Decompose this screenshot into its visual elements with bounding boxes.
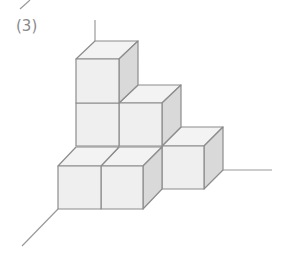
axis-top-left-tick bbox=[20, 0, 30, 9]
cube-stack-diagram bbox=[0, 0, 287, 254]
cube-top bbox=[76, 41, 138, 103]
cube-middle-left bbox=[76, 103, 119, 146]
axis-diagonal bbox=[22, 209, 58, 246]
